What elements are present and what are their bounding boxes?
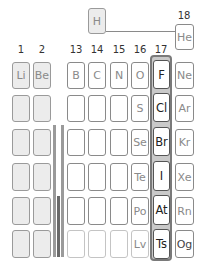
element-n[interactable]: N — [110, 62, 128, 89]
element-b[interactable]: B — [67, 62, 85, 89]
element-i[interactable]: I — [153, 161, 170, 191]
element-he[interactable]: He — [175, 24, 194, 50]
group-label-14: 14 — [87, 44, 107, 55]
h-he-connector-line — [106, 31, 175, 32]
group-label-2: 2 — [32, 44, 52, 55]
element-sb[interactable] — [110, 163, 128, 191]
element-ge[interactable] — [88, 129, 106, 156]
element-al[interactable] — [67, 95, 85, 122]
element-mg[interactable] — [33, 95, 51, 122]
element-ra[interactable] — [33, 230, 51, 258]
d-block-bar-right — [61, 125, 64, 257]
element-rn[interactable]: Rn — [175, 197, 194, 225]
element-sn[interactable] — [88, 163, 106, 191]
d-block-bar-middle — [57, 196, 60, 257]
element-fl[interactable] — [88, 230, 106, 258]
element-h[interactable]: H — [88, 8, 106, 34]
element-rb[interactable] — [12, 163, 30, 191]
element-in[interactable] — [67, 163, 85, 191]
element-po[interactable]: Po — [131, 197, 149, 225]
element-li[interactable]: Li — [12, 62, 30, 89]
element-si[interactable] — [88, 95, 106, 122]
element-ar[interactable]: Ar — [175, 95, 194, 122]
group-label-15: 15 — [109, 44, 129, 55]
element-cl[interactable]: Cl — [153, 93, 170, 122]
element-s[interactable]: S — [131, 95, 149, 122]
element-pb[interactable] — [88, 197, 106, 225]
element-br[interactable]: Br — [153, 127, 170, 156]
element-mc[interactable] — [110, 230, 128, 258]
group-label-16: 16 — [130, 44, 150, 55]
element-lv[interactable]: Lv — [131, 230, 149, 258]
element-te[interactable]: Te — [131, 163, 149, 191]
group-label-17: 17 — [151, 44, 171, 55]
element-c[interactable]: C — [88, 62, 106, 89]
element-be[interactable]: Be — [33, 62, 51, 89]
element-ts[interactable]: Ts — [153, 229, 170, 259]
element-cs[interactable] — [12, 197, 30, 225]
element-as[interactable] — [110, 129, 128, 156]
group-label-1: 1 — [11, 44, 31, 55]
element-at[interactable]: At — [153, 195, 170, 225]
element-ne[interactable]: Ne — [175, 62, 194, 89]
element-kr[interactable]: Kr — [175, 129, 194, 156]
element-o[interactable]: O — [131, 62, 149, 89]
element-p[interactable] — [110, 95, 128, 122]
element-k[interactable] — [12, 129, 30, 156]
d-block-bar-left — [53, 125, 56, 257]
element-tl[interactable] — [67, 197, 85, 225]
element-bi[interactable] — [110, 197, 128, 225]
element-xe[interactable]: Xe — [175, 163, 194, 191]
element-sr[interactable] — [33, 163, 51, 191]
element-ga[interactable] — [67, 129, 85, 156]
element-og[interactable]: Og — [175, 230, 194, 258]
element-na[interactable] — [12, 95, 30, 122]
element-nh[interactable] — [67, 230, 85, 258]
element-se[interactable]: Se — [131, 129, 149, 156]
element-fr[interactable] — [12, 230, 30, 258]
element-ba[interactable] — [33, 197, 51, 225]
group-label-13: 13 — [66, 44, 86, 55]
element-f[interactable]: F — [153, 60, 170, 89]
group-label-18: 18 — [174, 10, 194, 21]
element-ca[interactable] — [33, 129, 51, 156]
